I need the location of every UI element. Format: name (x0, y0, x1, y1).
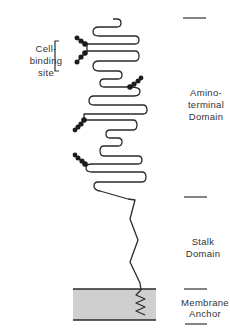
label-line: binding (18, 55, 74, 67)
stalk-chain (128, 199, 141, 290)
cell-binding-site-label: Cell- binding site (18, 43, 74, 79)
label-line: Membrane (174, 297, 230, 308)
label-line: site (18, 67, 74, 79)
stalk-domain-label: Stalk Domain (178, 236, 228, 260)
glycan-left-lower (73, 153, 87, 166)
amino-terminal-domain-label: Amino- terminal Domain (176, 87, 230, 123)
membrane-bilayer (73, 289, 156, 320)
label-line: Domain (178, 248, 228, 260)
label-line: Domain (176, 111, 230, 123)
label-line: Anchor (174, 308, 230, 319)
label-line: Amino- (176, 87, 230, 99)
membrane-anchor-label: Membrane Anchor (174, 297, 230, 319)
label-line: Stalk (178, 236, 228, 248)
glycan-left-middle (73, 118, 86, 132)
glycan-cell-binding-lower (75, 51, 87, 64)
domain-boundary-ticks (183, 18, 207, 324)
label-line: terminal (176, 99, 230, 111)
amino-terminal-fold (84, 19, 147, 199)
glycan-cell-binding-upper (75, 36, 87, 46)
label-line: Cell- (18, 43, 74, 55)
